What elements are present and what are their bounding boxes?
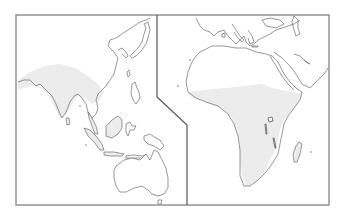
japan	[130, 22, 150, 58]
korea	[118, 48, 128, 58]
island-dot	[177, 85, 179, 87]
greece	[248, 30, 254, 44]
range-sub-saharan-africa	[188, 84, 302, 186]
island-dot	[310, 151, 311, 152]
crete	[252, 46, 258, 47]
range-map	[0, 0, 344, 218]
sulawesi	[126, 122, 136, 136]
taiwan	[127, 70, 130, 77]
med-islands	[222, 33, 225, 37]
philippines	[131, 82, 140, 104]
east-asia-coast	[78, 18, 150, 118]
caspian-sea	[292, 16, 300, 36]
island-dot	[189, 59, 191, 61]
borneo	[106, 116, 122, 138]
java	[104, 152, 124, 156]
tasmania	[158, 200, 162, 204]
persian-gulf	[294, 54, 310, 64]
europe-coast	[196, 18, 300, 46]
black-sea	[262, 18, 284, 28]
italy	[232, 24, 244, 42]
panel-asia-australia	[18, 18, 168, 204]
island-dot	[79, 105, 80, 106]
madagascar	[293, 142, 302, 162]
sri-lanka	[66, 118, 70, 125]
red-sea-coast	[270, 56, 294, 90]
panel-europe-africa	[177, 16, 328, 186]
new-guinea	[144, 134, 164, 150]
island-dot	[85, 144, 86, 145]
lake-victoria	[268, 117, 273, 122]
